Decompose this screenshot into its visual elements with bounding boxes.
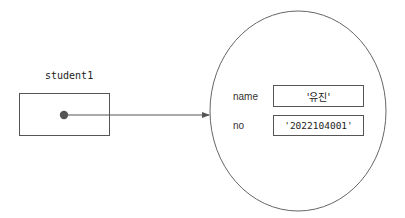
field-label-name: name	[233, 91, 258, 102]
variable-label: student1	[45, 70, 93, 81]
field-value-name: '유진'	[273, 85, 364, 107]
field-label-no: no	[233, 120, 244, 131]
variable-box	[19, 93, 110, 136]
field-value-no: '2022104001'	[273, 115, 364, 136]
object-circle	[210, 11, 386, 211]
